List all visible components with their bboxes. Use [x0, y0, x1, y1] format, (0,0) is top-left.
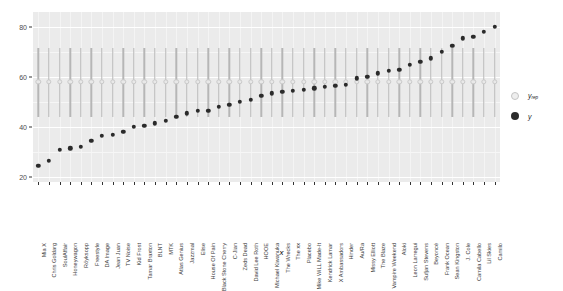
data-point-y	[492, 25, 496, 29]
data-point-y	[248, 97, 252, 101]
data-point-y-rep	[280, 79, 285, 84]
data-point-y-rep	[205, 79, 210, 84]
y-tick-mark	[29, 127, 32, 128]
data-point-y-rep	[78, 79, 83, 84]
x-tick-mark	[240, 182, 241, 185]
data-point-y	[100, 134, 104, 138]
x-tick-mark	[60, 182, 61, 185]
x-tick-mark	[187, 182, 188, 185]
data-point-y-rep	[396, 79, 401, 84]
x-tick-mark	[495, 182, 496, 185]
x-tick-mark	[378, 182, 379, 185]
x-tick-mark	[134, 182, 135, 185]
data-point-y-rep	[354, 79, 359, 84]
x-tick-mark	[314, 182, 315, 185]
y-axis: 80604020	[0, 12, 33, 182]
data-point-y-rep	[67, 79, 72, 84]
data-point-y-rep	[121, 79, 126, 84]
data-series-layer	[33, 12, 500, 182]
data-point-y-rep	[89, 79, 94, 84]
data-point-y-rep	[142, 79, 147, 84]
x-axis-labels: Mia XChris GoldargSoulAffairHoneywagonRö…	[33, 187, 500, 245]
x-tick-mark	[442, 182, 443, 185]
data-point-y-rep	[195, 79, 200, 84]
data-point-y-rep	[36, 79, 41, 84]
x-tick-mark	[335, 182, 336, 185]
data-point-y-rep	[407, 79, 412, 84]
y-tick-mark	[29, 177, 32, 178]
data-point-y	[174, 115, 178, 119]
x-tick-mark	[198, 182, 199, 185]
data-point-y	[408, 62, 412, 66]
x-tick-mark	[389, 182, 390, 185]
data-point-y-rep	[248, 79, 253, 84]
data-point-y	[333, 84, 337, 88]
x-tick-mark	[399, 182, 400, 185]
x-tick-mark	[49, 182, 50, 185]
x-tick-mark	[367, 182, 368, 185]
data-point-y-rep	[99, 79, 104, 84]
x-tick-mark	[357, 182, 358, 185]
data-point-y-rep	[163, 79, 168, 84]
legend-item-y-rep[interactable]: yrep	[508, 88, 538, 104]
data-point-y	[121, 130, 125, 134]
legend-label-y: y	[528, 113, 532, 120]
data-point-y-rep	[471, 79, 476, 84]
x-axis-ticks	[33, 182, 500, 186]
data-point-y-rep	[439, 79, 444, 84]
x-tick-mark	[484, 182, 485, 185]
data-point-y	[206, 109, 210, 113]
y-tick-mark	[29, 27, 32, 28]
legend-label-y-rep: yrep	[528, 92, 538, 100]
data-point-y	[312, 86, 316, 90]
x-tick-mark	[155, 182, 156, 185]
data-point-y	[132, 125, 136, 129]
legend: yrep y	[508, 88, 563, 128]
data-point-y	[386, 69, 390, 73]
data-point-y-rep	[131, 79, 136, 84]
x-tick-mark	[473, 182, 474, 185]
data-point-y	[482, 30, 486, 34]
data-point-y-rep	[227, 79, 232, 84]
data-point-y	[418, 60, 422, 64]
x-tick-mark	[293, 182, 294, 185]
data-point-y	[270, 91, 274, 95]
data-point-y-rep	[375, 79, 380, 84]
x-tick-mark	[346, 182, 347, 185]
data-point-y-rep	[216, 79, 221, 84]
data-point-y-rep	[460, 79, 465, 84]
data-point-y	[397, 67, 401, 71]
x-tick-mark	[272, 182, 273, 185]
data-point-y	[79, 145, 83, 149]
data-point-y	[439, 50, 443, 54]
data-point-y	[185, 111, 189, 115]
legend-item-y[interactable]: y	[508, 108, 532, 124]
data-point-y-rep	[174, 79, 179, 84]
data-point-y-rep	[386, 79, 391, 84]
x-tick-mark	[38, 182, 39, 185]
data-point-y-rep	[269, 79, 274, 84]
data-point-y-rep	[492, 79, 497, 84]
y-tick-label: 40	[19, 124, 27, 131]
x-tick-mark	[176, 182, 177, 185]
data-point-y	[291, 89, 295, 93]
x-tick-mark	[261, 182, 262, 185]
data-point-y	[217, 105, 221, 109]
data-point-y	[47, 159, 51, 163]
data-point-y-rep	[184, 79, 189, 84]
x-tick-mark	[229, 182, 230, 185]
x-tick-mark	[166, 182, 167, 185]
filled-circle-icon	[508, 109, 522, 123]
data-point-y	[429, 56, 433, 60]
data-point-y-rep	[481, 79, 486, 84]
data-point-y-rep	[237, 79, 242, 84]
data-point-y-rep	[57, 79, 62, 84]
data-point-y	[301, 87, 305, 91]
x-tick-mark	[208, 182, 209, 185]
data-point-y	[110, 132, 114, 136]
data-point-y	[89, 139, 93, 143]
x-tick-mark	[463, 182, 464, 185]
data-point-y-rep	[258, 79, 263, 84]
data-point-y	[376, 71, 380, 75]
